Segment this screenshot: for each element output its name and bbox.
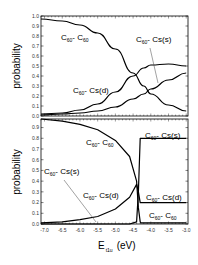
top-y-axis-ticks: 0.00.10.20.30.40.50.60.70.80.91.0 <box>32 13 188 119</box>
x-tick-label: -4.0 <box>146 227 155 233</box>
y-tick-label: 0.2 <box>32 93 39 99</box>
y-tick-label: 0.1 <box>32 103 39 109</box>
y-tick-label: 0.6 <box>32 157 39 163</box>
x-tick-label: -4.5 <box>129 227 138 233</box>
y-tick-label: 0.1 <box>32 210 39 216</box>
top-panel: 0.00.10.20.30.40.50.60.70.80.91.0 probab… <box>11 13 188 119</box>
curve-c60-cs-s- <box>41 73 186 115</box>
bottom-panel: 0.00.10.20.30.40.50.60.70.80.9 -7.0-6.5-… <box>11 119 191 253</box>
y-tick-label: 0.8 <box>32 135 39 141</box>
x-tick-label: -7.0 <box>40 227 49 233</box>
bottom-y-axis-label: probability <box>11 149 22 195</box>
bottom-label-c60-cs-d-right: C60- Cs(d) <box>146 193 182 203</box>
x-tick-label: -5.5 <box>93 227 102 233</box>
x-tick-label: -6.5 <box>58 227 67 233</box>
bottom-label-c60-cs-s-left: C60- Cs(s) <box>44 167 80 177</box>
x-tick-label: -6.0 <box>76 227 85 233</box>
y-tick-label: 0.7 <box>32 43 39 49</box>
bottom-label-c60-cs-d-left: C60- Cs(d) <box>83 191 119 201</box>
y-tick-label: 0.5 <box>32 63 39 69</box>
top-label-c60-cs-s: C60- Cs(s) <box>136 35 172 45</box>
y-tick-label: 0.9 <box>32 23 39 29</box>
y-tick-label: 0.0 <box>32 113 39 119</box>
top-y-axis-label: probability <box>11 43 22 89</box>
x-tick-label: -3.0 <box>182 227 191 233</box>
bottom-arrow-cs-s <box>64 180 96 222</box>
y-tick-label: 0.0 <box>32 221 39 227</box>
y-tick-label: 0.9 <box>32 124 39 130</box>
bottom-label-c60-cs-s-right: C60- Cs(s) <box>145 131 181 141</box>
y-tick-label: 0.5 <box>32 167 39 173</box>
bottom-label-c60-c60-right: C60- C60 <box>149 211 177 221</box>
top-x-axis-ticks <box>41 16 186 116</box>
x-axis-label: Et1u(eV) <box>98 240 136 253</box>
y-tick-label: 0.3 <box>32 83 39 89</box>
figure: 0.00.10.20.30.40.50.60.70.80.91.0 probab… <box>0 0 198 265</box>
bottom-label-c60-c60: C60- C60 <box>86 138 114 148</box>
y-tick-label: 0.4 <box>32 73 39 79</box>
y-tick-label: 1.0 <box>32 13 39 19</box>
y-tick-label: 0.4 <box>32 178 39 184</box>
x-tick-label: -5.0 <box>111 227 120 233</box>
y-tick-label: 0.8 <box>32 33 39 39</box>
top-label-c60-c60: C60- C60 <box>61 33 89 43</box>
y-tick-label: 0.6 <box>32 53 39 59</box>
y-tick-label: 0.7 <box>32 146 39 152</box>
y-tick-label: 0.3 <box>32 189 39 195</box>
y-tick-label: 0.2 <box>32 199 39 205</box>
top-label-c60-cs-d: C60- Cs(d) <box>73 86 109 96</box>
top-plot-frame <box>41 16 188 116</box>
x-tick-label: -3.5 <box>164 227 173 233</box>
